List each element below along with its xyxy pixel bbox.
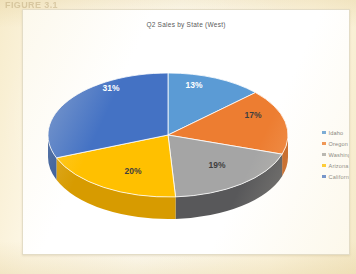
legend-swatch-icon	[322, 153, 326, 157]
chart-legend[interactable]: IdahoOregonWashingtonArizonaCalifornia	[322, 127, 350, 182]
legend-item-label: Washington	[329, 152, 351, 158]
pie-label-oregon: 17%	[244, 110, 261, 120]
pie-label-washington: 19%	[208, 160, 225, 170]
chart-card: Q2 Sales by State (West) 13%17%19%20%31%…	[22, 9, 350, 255]
legend-swatch-icon	[322, 142, 326, 146]
legend-swatch-icon	[322, 175, 326, 179]
pie-chart[interactable]: 13%17%19%20%31%	[31, 40, 309, 230]
legend-swatch-icon	[322, 131, 326, 135]
legend-item-arizona[interactable]: Arizona	[322, 160, 350, 171]
legend-item-label: Oregon	[329, 141, 349, 147]
legend-item-oregon[interactable]: Oregon	[322, 138, 350, 149]
pie-label-idaho: 13%	[185, 80, 202, 90]
legend-item-idaho[interactable]: Idaho	[322, 127, 350, 138]
legend-swatch-icon	[322, 164, 326, 168]
pie-label-arizona: 20%	[124, 166, 141, 176]
pie-chart-svg[interactable]: 13%17%19%20%31%	[31, 40, 309, 230]
chart-title: Q2 Sales by State (West)	[23, 21, 349, 28]
legend-item-label: Idaho	[329, 130, 344, 136]
legend-item-washington[interactable]: Washington	[322, 149, 350, 160]
pie-label-california: 31%	[102, 83, 119, 93]
legend-item-label: Arizona	[329, 163, 349, 169]
pie-slice-tops[interactable]	[48, 73, 288, 197]
legend-item-label: California	[329, 174, 351, 180]
legend-item-california[interactable]: California	[322, 171, 350, 182]
